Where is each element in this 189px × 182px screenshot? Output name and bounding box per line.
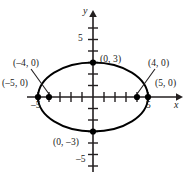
x-tick-label-neg5: –5 bbox=[31, 101, 41, 111]
point-focus-left bbox=[46, 94, 52, 100]
x-tick-label-pos5: 5 bbox=[146, 101, 151, 111]
y-tick-label-pos5: 5 bbox=[78, 34, 83, 44]
leader-line-focus-right bbox=[137, 69, 155, 94]
leader-line-focus-left bbox=[31, 69, 49, 94]
y-axis-label: y bbox=[83, 6, 87, 16]
point-covertex-top bbox=[90, 59, 96, 65]
x-axis-label: x bbox=[174, 100, 178, 110]
label-vertex-left: (–5, 0) bbox=[2, 79, 28, 89]
y-tick-label-neg5: –5 bbox=[76, 155, 86, 165]
label-focus-right: (4, 0) bbox=[148, 59, 169, 69]
label-covertex-top: (0, 3) bbox=[100, 55, 121, 65]
point-covertex-bottom bbox=[90, 128, 96, 134]
y-axis bbox=[89, 10, 97, 172]
label-covertex-bottom: (0, –3) bbox=[53, 138, 79, 148]
label-focus-left: (–4, 0) bbox=[13, 59, 39, 69]
point-focus-right bbox=[134, 94, 140, 100]
label-vertex-right: (5, 0) bbox=[155, 79, 176, 89]
ellipse-graph-figure: (–4, 0) (–5, 0) (4, 0) (5, 0) (0, 3) (0,… bbox=[0, 0, 189, 182]
coordinate-plane bbox=[0, 0, 189, 182]
